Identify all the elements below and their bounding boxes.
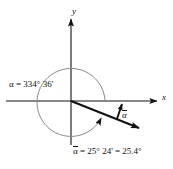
y-axis-label: y — [72, 7, 76, 16]
reference-angle-symbol-label: α — [122, 111, 127, 120]
angle-measure-label: α = 334° 36' — [9, 80, 53, 89]
terminal-side-ray — [71, 101, 139, 128]
x-axis-label: x — [162, 93, 166, 102]
alpha-bar-glyph: α — [122, 111, 127, 120]
reference-angle-measure-text: = 25° 24' = 25.4° — [78, 146, 142, 156]
reference-angle-measure-label: α = 25° 24' = 25.4° — [73, 147, 142, 156]
angle-diagram-figure: y x α = 334° 36' α α = 25° 24' = 25.4° — [0, 0, 173, 169]
alpha-bar-glyph-bottom: α — [73, 147, 78, 156]
